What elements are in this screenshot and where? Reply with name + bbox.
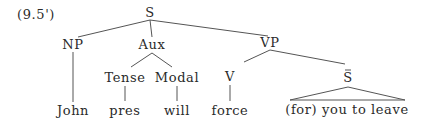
node-Aux: Aux	[138, 37, 166, 52]
node-S: S	[145, 5, 155, 20]
node-Tense: Tense	[104, 70, 145, 85]
node-V: V	[224, 69, 235, 84]
syntax-tree-diagram: (9.5') S NP Aux VP Tense Modal V S John …	[0, 0, 423, 122]
tree-edge	[270, 50, 345, 64]
tree-edge	[78, 20, 150, 37]
example-number: (9.5')	[17, 7, 55, 22]
tree-edge	[152, 53, 172, 67]
node-NP: NP	[62, 37, 83, 52]
leaf-clause: (for) you to leave	[285, 102, 408, 117]
node-S-bar: S	[343, 70, 353, 85]
leaf-John: John	[55, 103, 89, 118]
tree-edge	[244, 50, 270, 62]
tree-edge	[150, 20, 268, 36]
leaf-force: force	[212, 103, 249, 118]
leaf-will: will	[164, 103, 190, 118]
tree-edge	[131, 53, 152, 67]
leaf-pres: pres	[109, 103, 140, 118]
node-VP: VP	[259, 35, 279, 50]
node-Modal: Modal	[155, 70, 199, 85]
tree-edges	[73, 20, 345, 102]
tree-edge	[150, 20, 152, 37]
clause-triangle	[290, 87, 405, 100]
